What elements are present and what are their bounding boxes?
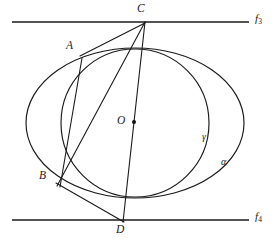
- center-point-dot: [132, 120, 136, 124]
- label-curve-gamma: γ: [202, 132, 206, 142]
- label-point-d: D: [116, 224, 124, 236]
- label-line-f3-subscript: 3: [258, 17, 262, 26]
- label-curve-alpha: α: [221, 157, 226, 167]
- label-line-f4: f4: [255, 211, 262, 223]
- label-center-o: O: [117, 115, 125, 127]
- segment-ab: [60, 58, 82, 187]
- label-point-a: A: [66, 40, 73, 52]
- label-line-f4-subscript: 4: [258, 215, 262, 224]
- label-point-b: B: [39, 170, 46, 182]
- label-point-c: C: [137, 3, 145, 15]
- segment-bd: [56, 183, 124, 222]
- geometry-figure: C A B D O γ α f3 f4: [0, 0, 280, 244]
- label-line-f3: f3: [255, 13, 262, 25]
- figure-canvas: [0, 0, 280, 244]
